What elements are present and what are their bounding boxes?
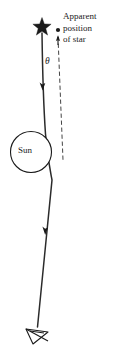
- light-ray-path: [38, 33, 53, 327]
- apparent-label-line-1: Apparent: [63, 12, 97, 21]
- apparent-label-line-3: of star: [63, 35, 97, 44]
- dot-marker-apparent-position: [56, 28, 60, 32]
- sun-label: Sun: [18, 146, 32, 155]
- theta-angle-label: θ: [45, 57, 50, 67]
- light-deflection-diagram: Apparent position of star Sun θ: [0, 0, 118, 353]
- apparent-position-label: Apparent position of star: [63, 12, 97, 47]
- apparent-label-line-2: position: [63, 24, 97, 33]
- diagram-canvas: [0, 0, 118, 353]
- dashed-line-apparent-sight: [58, 37, 63, 160]
